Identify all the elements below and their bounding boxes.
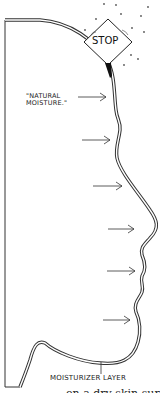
face-profile-diagram: [0, 0, 167, 393]
arrow-icon: [82, 136, 110, 144]
moisturizer-layer-label: MOISTURIZER LAYER: [50, 375, 126, 382]
stop-sign-label: STOP: [92, 35, 118, 46]
arrow-icon: [93, 182, 122, 190]
arrow-icon: [107, 267, 135, 275]
arrow-icon: [103, 316, 130, 324]
cutoff-caption: on a dry skin sur: [66, 387, 160, 393]
arrow-icon: [108, 225, 134, 233]
natural-moisture-label: "NATURAL MOISTURE.": [26, 93, 67, 107]
arrow-icon: [78, 93, 106, 101]
moisture-arrows: [78, 93, 135, 324]
stop-sign: [84, 19, 132, 78]
face-profile-outline: [5, 20, 156, 387]
head-outline-back: [5, 20, 20, 387]
